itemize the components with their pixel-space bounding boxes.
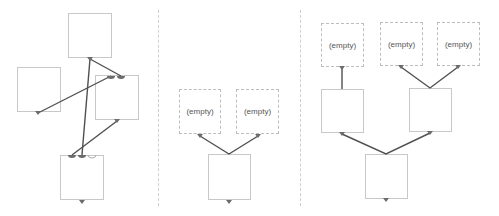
links-layer [0,0,499,216]
input-port-icon[interactable] [68,155,76,158]
input-port-icon[interactable] [78,155,86,158]
output-port-icon[interactable] [35,111,41,115]
link[interactable] [72,121,117,155]
input-port-icon[interactable] [117,76,125,79]
link[interactable] [38,76,111,113]
output-port-icon[interactable] [226,200,232,204]
link[interactable] [401,67,458,88]
link[interactable] [82,59,90,155]
input-port-icon[interactable] [107,76,115,79]
output-port-icon[interactable] [383,198,389,202]
output-port-icon[interactable] [339,66,345,70]
diagram-canvas: (empty) (empty) (empty) (empty) (empty) [0,0,499,216]
empty-input-port-icon[interactable] [88,155,96,158]
link[interactable] [200,136,258,154]
link[interactable] [342,133,430,154]
link[interactable] [90,59,121,76]
output-port-icon[interactable] [79,200,85,204]
